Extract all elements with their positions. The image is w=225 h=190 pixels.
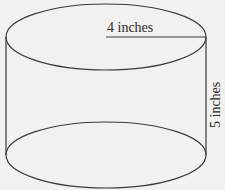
cylinder-diagram: 4 inches 5 inches — [0, 0, 225, 190]
height-label: 5 inches — [208, 82, 223, 128]
bottom-face — [6, 122, 206, 188]
cylinder-figure: 4 inches 5 inches — [0, 0, 225, 190]
radius-label: 4 inches — [107, 20, 153, 35]
